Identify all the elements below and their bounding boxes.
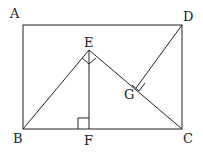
rectangle-abcd [23,25,182,129]
segment-be [23,50,89,129]
diagram-lines [0,0,203,152]
geometry-diagram: A D E G B F C [0,0,203,152]
right-angle-mark-f [78,118,89,129]
segment-ec [89,50,182,129]
label-d: D [183,10,193,23]
segment-dg [136,25,182,88]
label-e: E [84,36,94,49]
label-f: F [84,134,93,147]
label-c: C [183,132,193,145]
label-b: B [13,132,23,145]
label-g: G [124,88,134,101]
label-a: A [10,7,19,20]
